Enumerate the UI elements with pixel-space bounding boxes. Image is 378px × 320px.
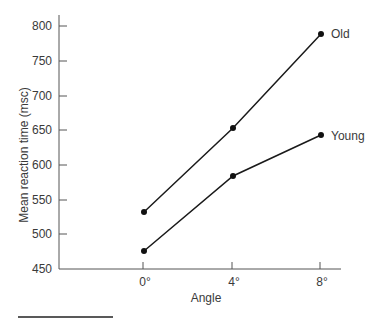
y-tick-label: 450 [32,262,52,276]
y-tick-label: 700 [32,89,52,103]
y-tick-label: 750 [32,54,52,68]
y-tick-label: 550 [32,193,52,207]
series-label-young: Young [331,129,365,143]
y-tick-label: 650 [32,123,52,137]
data-point [230,173,236,179]
y-axis-title: Mean reaction time (msc) [17,87,31,222]
y-tick-label: 500 [32,227,52,241]
y-tick-label: 800 [32,19,52,33]
x-tick-label: 0° [139,275,151,289]
data-point [230,125,236,131]
series-young: Young [141,129,365,254]
series-label-old: Old [331,27,350,41]
x-ticks [143,262,320,269]
x-tick-labels: 0° 4° 8° [139,275,328,289]
y-tick-labels: 800 750 700 650 600 550 500 450 [32,19,52,276]
x-tick-label: 8° [316,275,328,289]
series-old: Old [141,27,350,215]
chart: 800 750 700 650 600 550 500 450 0° 4° 8°… [0,0,378,320]
data-point [141,209,147,215]
y-tick-label: 600 [32,158,52,172]
data-point [141,248,147,254]
y-ticks [59,26,67,234]
x-tick-label: 4° [228,275,240,289]
x-axis-title: Angle [191,291,222,305]
data-point [318,132,324,138]
data-point [318,31,324,37]
